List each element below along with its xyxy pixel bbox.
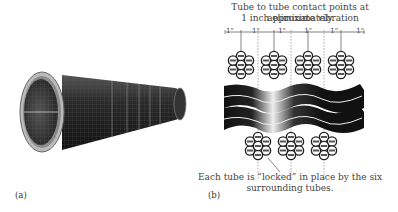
bottom-caption-line2: surrounding tubes. — [195, 183, 385, 194]
panel-b-label: (b) — [208, 190, 220, 200]
bottom-caption-line1: Each tube is “locked” in place by the si… — [195, 172, 385, 183]
